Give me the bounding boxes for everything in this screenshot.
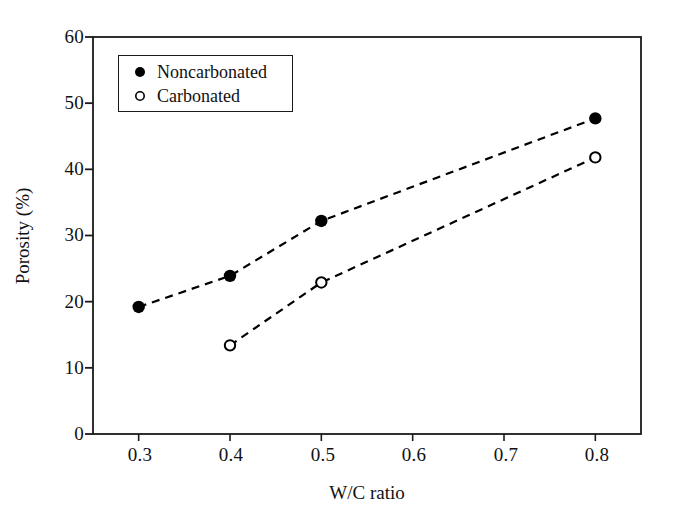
series-line-0	[139, 118, 596, 307]
ytick-label-50: 50	[48, 92, 84, 114]
xtick-label-0.5: 0.5	[311, 444, 335, 466]
x-axis-title: W/C ratio	[329, 482, 404, 504]
ytick-label-40: 40	[48, 158, 84, 180]
ytick-label-60: 60	[48, 26, 84, 48]
plot-canvas	[0, 0, 674, 523]
y-axis-title: Porosity (%)	[12, 188, 34, 285]
data-point[interactable]	[132, 301, 144, 313]
legend-entry-noncarbonated: Noncarbonated	[119, 60, 292, 84]
xtick-label-0.3: 0.3	[128, 444, 152, 466]
xtick-label-0.4: 0.4	[219, 444, 243, 466]
legend-label-noncarbonated: Noncarbonated	[157, 62, 267, 83]
ytick-label-10: 10	[48, 357, 84, 379]
xtick-label-0.8: 0.8	[585, 444, 609, 466]
ytick-label-0: 0	[48, 423, 84, 445]
open-circle-icon	[132, 88, 148, 104]
xtick-label-0.6: 0.6	[402, 444, 426, 466]
data-point[interactable]	[590, 152, 600, 162]
data-point[interactable]	[589, 112, 601, 124]
legend-label-carbonated: Carbonated	[157, 86, 240, 107]
data-point[interactable]	[315, 215, 327, 227]
legend-box: Noncarbonated Carbonated	[118, 55, 293, 112]
xtick-label-0.7: 0.7	[494, 444, 518, 466]
filled-circle-icon	[132, 64, 148, 80]
chart-figure: 60 50 40 30 20 10 0 0.3 0.4 0.5 0.6 0.7 …	[0, 0, 674, 523]
ytick-label-20: 20	[48, 291, 84, 313]
data-point[interactable]	[224, 270, 236, 282]
ytick-label-30: 30	[48, 224, 84, 246]
legend-entry-carbonated: Carbonated	[119, 84, 292, 108]
data-point[interactable]	[316, 277, 326, 287]
data-point[interactable]	[225, 340, 235, 350]
